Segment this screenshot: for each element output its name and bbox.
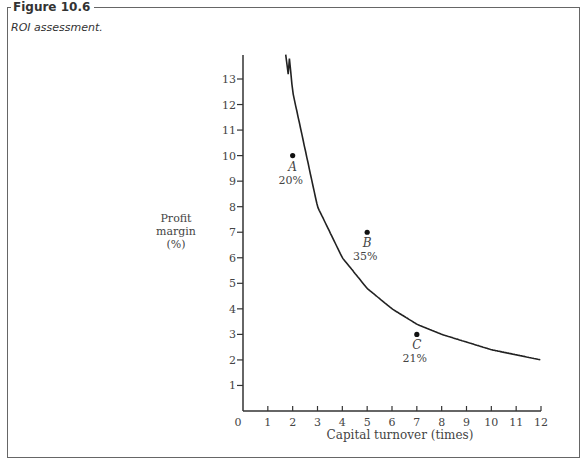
x-tick-label: 1 [264,416,271,429]
y-tick-label: 7 [229,226,236,239]
roi-curve [286,55,541,360]
point-label: A [287,160,297,174]
y-tick-label: 1 [229,379,236,392]
y-tick-label: 3 [229,328,236,341]
point-annotation: 21% [403,352,427,365]
roi-chart: 012345678910111212345678910111213A20%B35… [0,0,587,468]
y-tick-label: 13 [222,73,236,86]
y-tick-label: 4 [229,303,236,316]
x-tick-label: 11 [509,416,523,429]
y-tick-label: 12 [222,99,236,112]
y-tick-label: 5 [229,277,236,290]
y-label-line: margin [150,225,202,238]
y-label-line: Profit [150,212,202,225]
y-tick-label: 2 [229,354,236,367]
point-label: C [412,338,421,352]
y-tick-label: 8 [229,201,236,214]
x-tick-label: 12 [534,416,548,429]
point-annotation: 20% [278,174,302,187]
data-point-a [290,153,295,158]
y-tick-label: 9 [229,175,236,188]
point-label: B [362,236,372,250]
y-tick-label: 10 [222,150,236,163]
y-axis-label: Profit margin (%) [150,212,202,251]
y-tick-label: 11 [222,124,236,137]
y-label-line: (%) [150,238,202,251]
x-axis-label: Capital turnover (times) [300,428,500,442]
point-annotation: 35% [353,250,377,263]
data-point-b [365,230,370,235]
y-tick-label: 6 [229,252,236,265]
x-tick-label: 0 [235,416,242,429]
x-tick-label: 2 [289,416,296,429]
data-point-c [414,332,419,337]
